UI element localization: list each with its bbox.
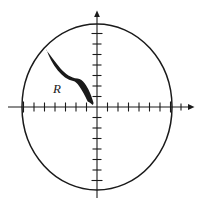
y-axis-arrow-icon (94, 11, 100, 18)
region-curve (46, 50, 94, 106)
region-label-R: R (52, 81, 61, 96)
figure-root: R (0, 0, 205, 205)
x-axis (8, 102, 195, 113)
x-axis-arrow-icon (188, 104, 195, 110)
coordinate-plane-figure: R (0, 0, 205, 205)
